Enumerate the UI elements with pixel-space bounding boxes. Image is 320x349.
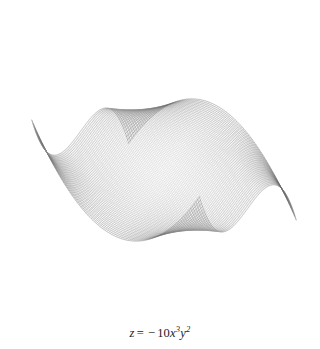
caption-equals: = [135, 326, 146, 340]
wireframe-mesh [0, 0, 320, 320]
surface-plot-figure: z=−10x3y2 [0, 0, 320, 349]
caption-lhs: z [130, 326, 135, 340]
plot-area [0, 0, 320, 320]
caption-minus: − [146, 326, 157, 340]
caption-coefficient: 10 [157, 326, 170, 340]
equation-caption: z=−10x3y2 [0, 326, 320, 341]
caption-exp-y: 2 [186, 324, 190, 334]
